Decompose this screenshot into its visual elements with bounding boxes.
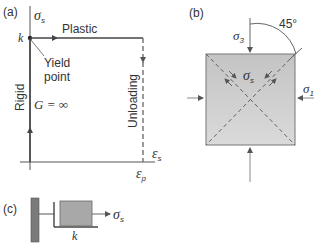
- x-axis-label: εs: [152, 146, 162, 163]
- sliding-block: [60, 201, 92, 226]
- plastic-label: Plastic: [62, 22, 97, 36]
- panel-a-stress-strain: (a) σs εs k Plastic Yield point Rigid G …: [3, 5, 162, 183]
- yield-stress-k: k: [18, 31, 24, 45]
- yield-label-line2: point: [44, 70, 71, 84]
- figure-canvas: (a) σs εs k Plastic Yield point Rigid G …: [0, 0, 318, 244]
- sigma3-label: σ3: [233, 28, 244, 45]
- angle-label: 45°: [279, 17, 297, 31]
- panel-c-friction-model: (c) σs k: [3, 198, 124, 243]
- yield-leader-line: [31, 40, 44, 56]
- panel-b-stress-element: (b) σ3 σ1 45° σs: [187, 6, 314, 182]
- plastic-strain-tick: εp: [136, 166, 147, 183]
- unloading-label: Unloading: [126, 74, 140, 128]
- fixed-wall: [31, 198, 39, 242]
- panel-b-label: (b): [189, 6, 204, 20]
- rigid-arrow-icon: [27, 127, 33, 133]
- modulus-label: G = ∞: [34, 97, 68, 112]
- force-label: σs: [113, 207, 124, 224]
- panel-a-label: (a): [3, 5, 18, 19]
- sigma1-label: σ1: [303, 81, 314, 98]
- rigid-label: Rigid: [13, 84, 27, 111]
- plastic-arrow-icon: [52, 35, 58, 41]
- yield-label-line1: Yield: [44, 56, 70, 70]
- unloading-arrow-icon: [140, 57, 146, 63]
- y-axis-label: σs: [34, 8, 45, 25]
- friction-label: k: [72, 229, 78, 243]
- panel-c-label: (c): [3, 202, 17, 216]
